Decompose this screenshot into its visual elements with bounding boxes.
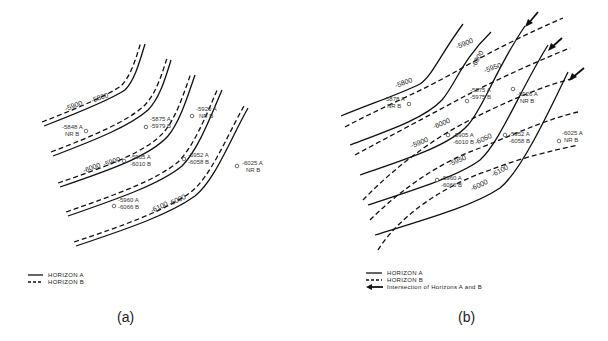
well-label-a: -5952 A xyxy=(188,152,209,158)
intersection-arrow xyxy=(569,68,584,81)
well-label-b: -5979 B xyxy=(150,123,171,129)
contour-label: -6000 xyxy=(167,193,186,207)
well-label-b: -6058 B xyxy=(509,138,530,144)
well-label-a: -5926 A xyxy=(517,91,538,97)
horizon-b-contour xyxy=(370,112,578,220)
contour-label: -5900 xyxy=(455,37,474,50)
well: -5875 A -5979 B xyxy=(144,116,171,129)
contour-label: -5800 xyxy=(90,91,109,104)
well: -5926 A NR B xyxy=(511,87,537,104)
well-symbol xyxy=(435,178,439,182)
panel-b: -5800 -5900 -6000 -5950 -6000 -5900 -605… xyxy=(341,12,584,325)
well-label-a: -5875 A xyxy=(150,116,171,122)
contour-label: -6000 xyxy=(469,178,488,192)
contour-label: -6100 xyxy=(490,163,509,178)
well-label-b: NR B xyxy=(520,98,534,104)
well-symbol xyxy=(190,114,194,118)
well-symbol xyxy=(465,99,469,103)
well-label-b: -5975 B xyxy=(470,94,491,100)
intersection-arrow xyxy=(525,12,538,27)
well-symbol xyxy=(407,102,411,106)
legend-b: HORIZON A HORIZON B Intersection of Hori… xyxy=(366,270,482,290)
legend-label: Intersection of Horizons A and B xyxy=(387,284,482,290)
legend-label: HORIZON B xyxy=(48,279,84,285)
legend-arrow-swatch xyxy=(366,284,383,290)
contour-label: -6100 xyxy=(149,200,168,214)
contour-label: -6000 xyxy=(82,161,101,174)
well-symbol xyxy=(511,87,515,91)
legend-a: HORIZON A HORIZON B xyxy=(28,272,84,285)
well: -5848 A NR B xyxy=(62,124,88,137)
well-label-b: -6010 B xyxy=(130,161,151,167)
contour-label: -6000 xyxy=(470,49,485,68)
intersection-arrow xyxy=(548,38,562,51)
horizon-b-contour xyxy=(42,42,141,122)
legend-label: HORIZON A xyxy=(48,272,84,278)
well-symbol xyxy=(235,164,239,168)
legend-label: HORIZON A xyxy=(387,270,423,276)
well-symbol xyxy=(112,204,116,208)
contour-label: -6050 xyxy=(473,132,492,146)
well-label-a: -6025 A xyxy=(242,160,263,166)
well-label-b: NR B xyxy=(246,167,260,173)
well-label-b: NR B xyxy=(387,103,401,109)
legend-label: HORIZON B xyxy=(387,277,423,283)
structure-contour-diagram: -5900 -5800 -6000 -5900 -6100 -6000 -584… xyxy=(0,0,608,341)
panel-caption: (a) xyxy=(117,309,134,325)
contour-label: -6000 xyxy=(432,117,451,130)
well-label-b: NR B xyxy=(564,137,578,143)
well-symbol xyxy=(122,159,126,163)
horizon-a-contour xyxy=(341,24,463,116)
well-label-a: -5920 A xyxy=(196,106,217,112)
contour-label: -5800 xyxy=(394,76,413,89)
panel-a: -5900 -5800 -6000 -5900 -6100 -6000 -584… xyxy=(28,42,263,325)
well-symbol xyxy=(84,129,88,133)
contour-label: -5900 xyxy=(64,99,83,112)
well-label-a: -5848 A xyxy=(62,124,83,130)
well-label-a: -5960 A xyxy=(118,197,139,203)
well-label-a: -5878 A xyxy=(384,96,405,102)
well: -6025 A NR B xyxy=(557,130,582,143)
horizon-a-contour xyxy=(44,44,145,126)
well: -6025 A NR B xyxy=(235,160,262,173)
well: -5905 A -6010 B xyxy=(122,154,151,167)
well: -5952 A -6058 B xyxy=(182,152,209,165)
well-label-a: -5952 A xyxy=(509,131,530,137)
well-label-b: -6058 B xyxy=(188,159,209,165)
well: -5920 A NR B xyxy=(190,106,216,119)
well-label-b: -6010 B xyxy=(453,139,474,145)
well-label-b: -6066 B xyxy=(118,204,139,210)
well-symbol xyxy=(503,133,507,137)
well-label-b: NR B xyxy=(199,113,213,119)
well: -5875 A -5975 B xyxy=(465,87,491,103)
well-symbol xyxy=(144,125,148,129)
well-label-b: NR B xyxy=(65,131,79,137)
horizon-a-contour xyxy=(60,75,195,187)
well: -5878 A NR B xyxy=(384,96,411,109)
well: -5960 A -6066 B xyxy=(435,175,462,188)
well-label-a: -5905 A xyxy=(130,154,151,160)
well-symbol xyxy=(182,157,186,161)
well-label-a: -5875 A xyxy=(470,87,491,93)
panel-caption: (b) xyxy=(458,309,475,325)
well-symbol xyxy=(446,133,450,137)
well-label-a: -5960 A xyxy=(441,175,462,181)
well-label-a: -5905 A xyxy=(453,132,474,138)
well-symbol xyxy=(557,139,561,143)
well-label-a: -6025 A xyxy=(562,130,583,136)
horizon-b-contour xyxy=(345,18,563,127)
contour-label: -5950 xyxy=(483,61,502,74)
contour-label: -5950 xyxy=(448,154,467,167)
well-label-b: -6066 B xyxy=(441,182,462,188)
